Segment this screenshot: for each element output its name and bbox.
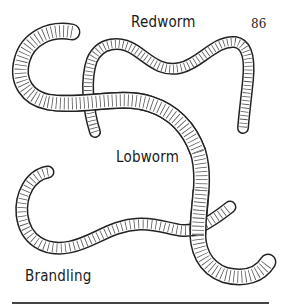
lobworm-label: Lobworm: [116, 148, 179, 166]
lobworm-overlap: [48, 100, 198, 152]
brandling-label: Brandling: [25, 267, 91, 285]
page-number: 86: [251, 17, 266, 31]
redworm-label: Redworm: [131, 13, 196, 31]
lobworm-overlap-lower: [198, 190, 201, 235]
horizontal-rule: [12, 302, 269, 304]
